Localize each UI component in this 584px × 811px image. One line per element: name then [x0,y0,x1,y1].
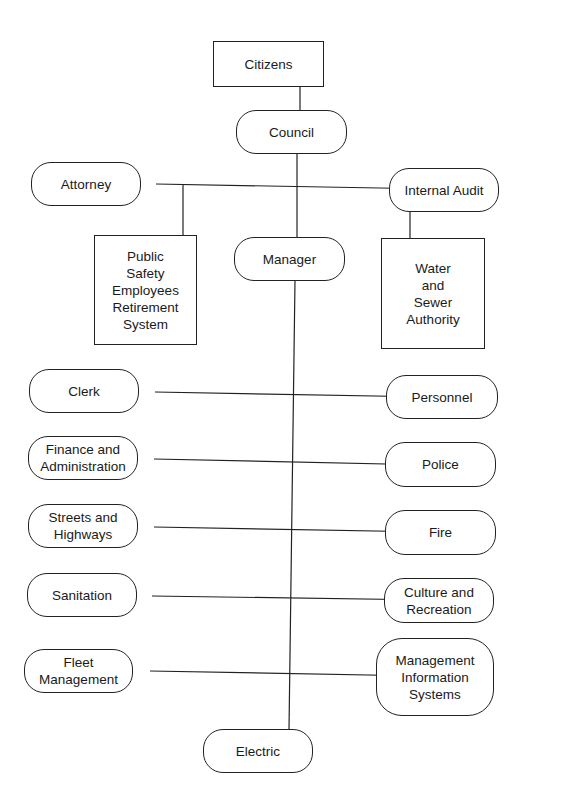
node-management-information-systems: Management Information Systems [376,638,494,716]
node-water-and-sewer-authority: Water and Sewer Authority [381,238,485,349]
node-finance-and-administration: Finance and Administration [28,436,138,480]
node-citizens: Citizens [213,41,324,87]
node-clerk: Clerk [29,369,139,413]
node-sanitation: Sanitation [27,573,137,617]
node-personnel: Personnel [386,375,498,419]
node-culture-and-recreation: Culture and Recreation [384,578,494,623]
node-fire: Fire [385,510,496,555]
node-fleet-management: Fleet Management [24,649,133,693]
node-manager: Manager [234,237,345,281]
node-electric: Electric [203,729,313,773]
node-police: Police [385,442,496,487]
node-public-safety-employees-retirement-system: Public Safety Employees Retirement Syste… [94,235,197,345]
node-internal-audit: Internal Audit [389,168,499,212]
org-chart: Citizens Council Attorney Internal Audit… [0,0,584,811]
node-council: Council [236,110,347,154]
node-attorney: Attorney [31,162,141,206]
node-streets-and-highways: Streets and Highways [28,504,138,548]
